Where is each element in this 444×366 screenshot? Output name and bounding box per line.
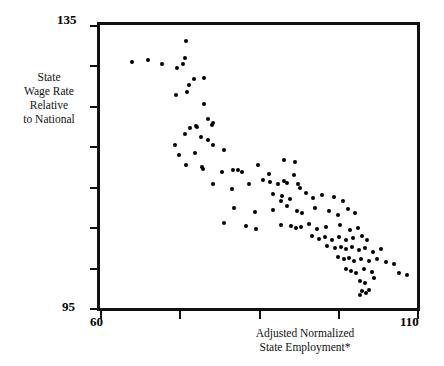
data-point — [372, 276, 376, 280]
data-point — [267, 172, 271, 176]
y-axis-title: State Wage Rate Relative to National — [6, 70, 92, 126]
data-point — [279, 223, 283, 227]
data-point — [294, 226, 298, 230]
data-point — [359, 257, 363, 261]
data-point — [185, 90, 189, 94]
data-point — [311, 196, 315, 200]
data-point — [222, 221, 226, 225]
data-point — [353, 211, 357, 215]
data-point — [352, 259, 356, 263]
data-point — [336, 213, 340, 217]
data-point — [317, 237, 321, 241]
data-point — [192, 77, 196, 81]
data-point — [187, 83, 191, 87]
data-point — [244, 224, 248, 228]
data-point — [371, 250, 375, 254]
data-point — [268, 180, 272, 184]
data-point — [206, 138, 210, 142]
x-axis-tick — [259, 311, 261, 319]
data-point — [210, 123, 214, 127]
data-point — [360, 234, 364, 238]
x-axis-tick — [338, 311, 340, 319]
data-point — [333, 246, 337, 250]
data-point — [232, 206, 236, 210]
data-point — [202, 76, 206, 80]
data-point — [183, 56, 187, 60]
data-point — [375, 257, 379, 261]
data-point — [195, 125, 199, 129]
data-point — [327, 209, 331, 213]
data-point — [324, 225, 328, 229]
data-point — [397, 271, 401, 275]
data-point — [304, 191, 308, 195]
data-point — [173, 143, 177, 147]
data-point — [349, 269, 353, 273]
data-point — [363, 281, 367, 285]
data-point — [336, 255, 340, 259]
data-point — [363, 246, 367, 250]
data-point — [222, 148, 226, 152]
data-point — [188, 126, 192, 130]
y-axis-min-label: 95 — [62, 299, 75, 315]
data-point — [193, 151, 197, 155]
data-point — [405, 273, 409, 277]
data-point — [285, 181, 289, 185]
data-point — [160, 62, 164, 66]
y-axis-title-line-2: Wage Rate — [6, 84, 92, 98]
data-point — [177, 153, 181, 157]
data-point — [310, 234, 314, 238]
data-point — [313, 206, 317, 210]
data-point — [367, 259, 371, 263]
data-point — [338, 223, 342, 227]
data-point — [351, 236, 355, 240]
data-point — [199, 135, 203, 139]
x-axis-title: Adjusted Normalized State Employment* — [215, 326, 395, 354]
data-point — [347, 256, 351, 260]
data-point — [350, 245, 354, 249]
data-point — [299, 225, 303, 229]
data-point — [282, 158, 286, 162]
data-point — [344, 238, 348, 242]
data-point — [247, 182, 251, 186]
data-point — [348, 228, 352, 232]
data-point — [342, 257, 346, 261]
data-point — [271, 192, 275, 196]
data-point — [276, 182, 280, 186]
data-point — [220, 170, 224, 174]
data-point — [271, 208, 275, 212]
x-axis-title-line-1: Adjusted Normalized — [215, 326, 395, 340]
data-point — [211, 182, 215, 186]
data-point — [330, 238, 334, 242]
data-point — [392, 262, 396, 266]
data-point — [320, 193, 324, 197]
data-point — [365, 238, 369, 242]
data-point — [289, 224, 293, 228]
data-point — [293, 160, 297, 164]
data-point — [356, 226, 360, 230]
data-point — [300, 211, 304, 215]
data-point — [325, 244, 329, 248]
data-point — [358, 293, 362, 297]
data-point — [307, 222, 311, 226]
data-point — [298, 186, 302, 190]
data-point — [292, 173, 296, 177]
data-point — [184, 163, 188, 167]
data-point — [130, 60, 134, 64]
data-point — [240, 170, 244, 174]
x-axis-max-label: 110 — [400, 314, 419, 330]
data-point — [344, 267, 348, 271]
y-axis-title-line-3: Relative — [6, 98, 92, 112]
data-point — [231, 168, 235, 172]
data-point — [337, 235, 341, 239]
data-point — [354, 271, 358, 275]
y-axis-title-line-4: to National — [6, 112, 92, 126]
data-point — [279, 199, 283, 203]
plot-frame — [97, 22, 420, 311]
data-point — [362, 267, 366, 271]
data-point — [358, 279, 362, 283]
data-point — [288, 197, 292, 201]
data-point — [384, 260, 388, 264]
data-point — [206, 117, 210, 121]
data-point — [346, 207, 350, 211]
data-point — [254, 227, 258, 231]
